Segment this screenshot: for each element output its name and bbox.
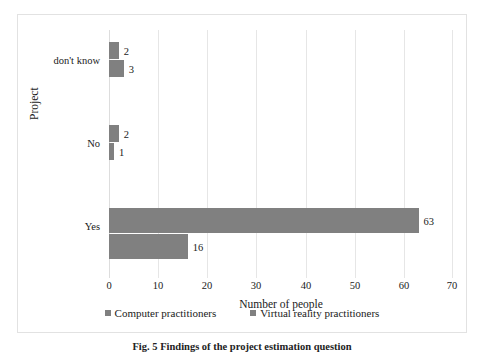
bar-value-vr-dont-know: 3 xyxy=(124,63,134,74)
bar-row-computer-no: 2 xyxy=(109,125,453,142)
bar-group-no: No 2 1 xyxy=(109,125,453,161)
category-label-no: No xyxy=(87,138,100,149)
bar-computer-yes[interactable] xyxy=(109,208,419,233)
bar-row-computer-dont-know: 2 xyxy=(109,42,453,59)
x-tick-70: 70 xyxy=(447,280,458,291)
bar-vr-yes[interactable] xyxy=(109,234,188,259)
bar-computer-no[interactable] xyxy=(109,125,119,142)
legend-label-computer-practitioners: Computer practitioners xyxy=(115,307,217,319)
legend-swatch-icon xyxy=(105,310,111,316)
category-label-dont-know: don't know xyxy=(53,55,100,66)
x-tick-30: 30 xyxy=(251,280,262,291)
bar-value-vr-no: 1 xyxy=(114,146,124,157)
bar-group-yes: Yes 63 16 xyxy=(109,208,453,260)
category-label-yes: Yes xyxy=(85,221,100,232)
bar-value-computer-dont-know: 2 xyxy=(119,45,129,56)
bar-row-computer-yes: 63 xyxy=(109,208,453,233)
bar-value-computer-no: 2 xyxy=(119,128,129,139)
bar-value-computer-yes: 63 xyxy=(419,215,435,226)
legend-item-computer-practitioners[interactable]: Computer practitioners xyxy=(105,307,217,319)
x-tick-50: 50 xyxy=(350,280,361,291)
bar-computer-dont-know[interactable] xyxy=(109,42,119,59)
legend-label-virtual-reality-practitioners: Virtual reality practitioners xyxy=(260,307,379,319)
x-tick-40: 40 xyxy=(301,280,312,291)
bar-group-dont-know: don't know 2 3 xyxy=(109,42,453,78)
y-axis-title: Project xyxy=(28,87,40,120)
x-tick-20: 20 xyxy=(202,280,213,291)
x-tick-0: 0 xyxy=(106,280,111,291)
x-tick-60: 60 xyxy=(399,280,410,291)
bar-row-vr-no: 1 xyxy=(109,143,453,160)
bar-row-vr-yes: 16 xyxy=(109,234,453,259)
bar-vr-dont-know[interactable] xyxy=(109,60,124,77)
x-axis-ticks: 0 10 20 30 40 50 60 70 xyxy=(109,280,453,296)
bar-row-vr-dont-know: 3 xyxy=(109,60,453,77)
plot-area: don't know 2 3 No 2 1 Yes xyxy=(109,30,453,278)
chart-frame: don't know 2 3 No 2 1 Yes xyxy=(17,14,467,333)
figure-caption: Fig. 5 Findings of the project estimatio… xyxy=(0,341,484,352)
legend-item-virtual-reality-practitioners[interactable]: Virtual reality practitioners xyxy=(250,307,379,319)
x-tick-10: 10 xyxy=(153,280,164,291)
chart-legend: Computer practitioners Virtual reality p… xyxy=(18,307,466,319)
bar-value-vr-yes: 16 xyxy=(188,241,204,252)
legend-swatch-icon xyxy=(250,310,256,316)
